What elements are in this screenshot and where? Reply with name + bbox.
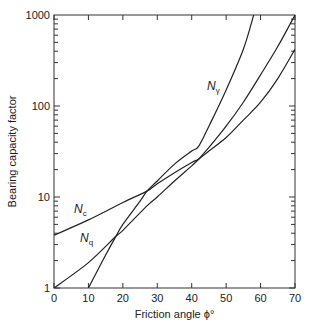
x-axis-label: Friction angle ϕ° bbox=[135, 308, 215, 320]
x-tick-label: 20 bbox=[117, 292, 129, 304]
labels: NcNqNγ bbox=[74, 79, 220, 247]
x-tick-label: 60 bbox=[254, 292, 266, 304]
series-label-nc: Nc bbox=[74, 202, 87, 218]
chart: 0102030405060701101001000Friction angle … bbox=[0, 0, 311, 329]
plot-frame bbox=[54, 15, 295, 288]
x-tick-label: 70 bbox=[289, 292, 301, 304]
y-tick-label: 100 bbox=[32, 100, 50, 112]
axes: 0102030405060701101001000Friction angle … bbox=[6, 9, 301, 320]
y-axis-label: Bearing capacity factor bbox=[6, 95, 18, 207]
curves bbox=[54, 15, 295, 288]
x-tick-label: 30 bbox=[151, 292, 163, 304]
y-tick-label: 1000 bbox=[26, 9, 50, 21]
series-label-nq: Nq bbox=[80, 231, 93, 247]
x-tick-label: 0 bbox=[51, 292, 57, 304]
curve-nq bbox=[54, 15, 295, 288]
y-tick-label: 10 bbox=[38, 191, 50, 203]
y-tick-label: 1 bbox=[44, 282, 50, 294]
x-tick-label: 10 bbox=[82, 292, 94, 304]
series-label-nγ: Nγ bbox=[207, 79, 220, 95]
curve-nγ bbox=[88, 15, 253, 288]
x-tick-label: 50 bbox=[220, 292, 232, 304]
x-tick-label: 40 bbox=[186, 292, 198, 304]
